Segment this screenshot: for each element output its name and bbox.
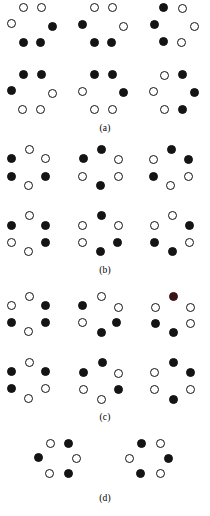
open-dot [149, 155, 158, 164]
open-dot [24, 247, 33, 256]
filled-dot [164, 454, 173, 463]
filled-dot [19, 38, 28, 47]
dot-ring [74, 0, 136, 52]
open-dot [186, 319, 195, 328]
open-dot [41, 384, 50, 393]
open-dot [108, 105, 117, 114]
dot-ring [3, 143, 65, 195]
open-dot [7, 19, 16, 28]
row-spacer [0, 342, 210, 356]
open-dot [72, 454, 81, 463]
panel-a: (a) [0, 0, 210, 134]
open-dot [90, 3, 99, 12]
filled-dot [98, 358, 107, 367]
filled-dot [41, 238, 50, 247]
filled-dot [41, 318, 50, 327]
open-dot [160, 71, 169, 80]
filled-dot [186, 368, 195, 377]
open-dot [177, 38, 186, 47]
open-dot [150, 385, 159, 394]
filled-dot [169, 358, 178, 367]
figure-b5 [74, 209, 136, 261]
filled-dot [149, 172, 158, 181]
open-dot [151, 303, 160, 312]
open-dot [97, 292, 106, 301]
figure-a1 [3, 0, 65, 52]
filled-dot [151, 319, 160, 328]
open-dot [160, 105, 169, 114]
panel-c-row-2 [3, 356, 207, 408]
open-dot [186, 385, 195, 394]
panel-c-rows: (c) [0, 290, 210, 423]
open-dot [7, 238, 16, 247]
panel-b-row-2 [3, 209, 207, 261]
figure-c5 [74, 356, 136, 408]
filled-dot [97, 328, 106, 337]
dot-ring [28, 437, 90, 489]
filled-dot [178, 105, 187, 114]
open-dot [24, 327, 33, 336]
filled-dot [168, 247, 177, 256]
open-dot [114, 303, 123, 312]
figure-a2 [74, 0, 136, 52]
dot-ring [145, 290, 207, 342]
open-dot [78, 318, 87, 327]
filled-dot [41, 172, 50, 181]
open-dot [97, 395, 106, 404]
filled-dot [167, 145, 176, 154]
dot-ring [145, 143, 207, 195]
figure-sheet: (a) [0, 0, 210, 516]
open-dot [78, 172, 87, 181]
filled-dot [96, 181, 105, 190]
filled-dot [107, 38, 116, 47]
panel-a-row-2 [3, 67, 207, 119]
open-dot [156, 439, 165, 448]
figure-c3 [145, 290, 207, 342]
open-dot [78, 221, 87, 230]
open-dot [185, 238, 194, 247]
filled-dot [90, 70, 99, 79]
filled-dot [37, 70, 46, 79]
open-dot [25, 145, 34, 154]
filled-dot [19, 70, 28, 79]
filled-dot [64, 439, 73, 448]
filled-dot [36, 38, 45, 47]
filled-dot [97, 145, 106, 154]
open-dot [36, 105, 45, 114]
open-dot [184, 172, 193, 181]
filled-dot [159, 37, 168, 46]
open-dot [178, 4, 187, 13]
dot-ring [74, 356, 136, 408]
open-dot [108, 3, 117, 12]
open-dot [46, 439, 55, 448]
figure-c4 [3, 356, 65, 408]
open-dot [114, 221, 123, 230]
panel-d-label: (d) [0, 492, 210, 504]
open-dot [149, 87, 158, 96]
open-dot [90, 105, 99, 114]
panel-a-label: (a) [0, 122, 210, 134]
dot-ring [74, 67, 136, 119]
dot-ring [145, 67, 207, 119]
open-dot [114, 155, 123, 164]
dot-ring [145, 209, 207, 261]
panel-a-row-1 [3, 0, 207, 52]
open-dot [48, 89, 57, 98]
open-dot [168, 211, 177, 220]
open-dot [125, 454, 134, 463]
row-spacer [0, 52, 210, 67]
panel-b: (b) [0, 143, 210, 276]
filled-dot [79, 368, 88, 377]
open-dot [79, 385, 88, 394]
panel-d-row-1 [3, 437, 207, 489]
panel-d: (d) [0, 437, 210, 504]
filled-dot [108, 70, 117, 79]
filled-dot [159, 3, 168, 12]
open-dot [78, 238, 87, 247]
filled-dot [7, 384, 16, 393]
open-dot [7, 301, 16, 310]
filled-dot [112, 318, 121, 327]
panel-d-rows: (d) [0, 437, 210, 504]
dot-ring [3, 290, 65, 342]
figure-a5 [74, 67, 136, 119]
